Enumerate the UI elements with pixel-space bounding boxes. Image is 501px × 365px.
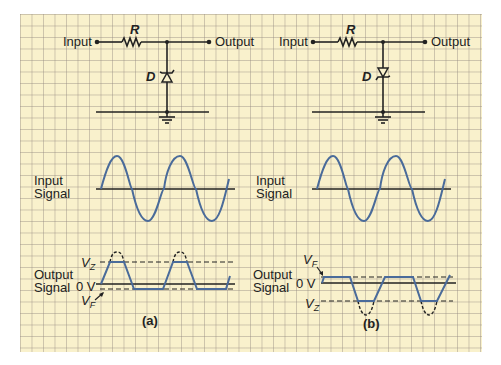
resistor-icon: [122, 38, 141, 46]
output-signal-label-2: Signal: [253, 280, 289, 295]
vz-label: VZ: [305, 296, 320, 313]
input-signal-label-2: Signal: [256, 186, 292, 201]
zener-diode-icon: [160, 70, 174, 82]
output-clipped-wave-b: [322, 275, 450, 301]
output-terminal: [423, 40, 428, 45]
zero-volt-label: 0 V: [76, 279, 96, 294]
panel-a: Input Output R D Input Signal Output Sig…: [34, 22, 254, 328]
caption-b: (b): [363, 316, 380, 331]
input-terminal: [95, 40, 100, 45]
vz-label: VZ: [81, 255, 96, 272]
input-signal-label-2: Signal: [34, 186, 70, 201]
output-label: Output: [215, 34, 254, 49]
input-label: Input: [63, 34, 92, 49]
input-label: Input: [279, 34, 308, 49]
diode-label: D: [362, 69, 372, 84]
output-label: Output: [431, 34, 470, 49]
caption-a: (a): [142, 313, 158, 328]
vf-label: VF: [303, 252, 318, 269]
zero-volt-label: 0 V: [296, 276, 316, 291]
resistor-icon: [338, 38, 357, 46]
output-signal-label-2: Signal: [34, 280, 70, 295]
panel-b: Input Output R D Input Signal Output Sig…: [253, 22, 470, 331]
output-clipped-wave-a: [101, 262, 230, 289]
zener-clipper-diagram: Input Output R D Input Signal Output Sig…: [0, 0, 501, 365]
resistor-label: R: [346, 22, 356, 37]
input-terminal: [311, 40, 316, 45]
vf-label: VF: [81, 293, 96, 310]
diode-label: D: [146, 69, 156, 84]
output-terminal: [207, 40, 212, 45]
resistor-label: R: [130, 22, 140, 37]
zener-diode-icon: [376, 68, 390, 80]
